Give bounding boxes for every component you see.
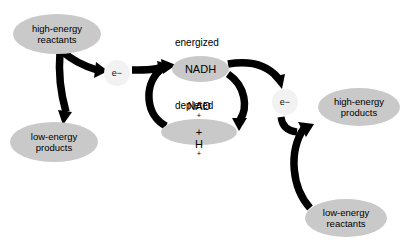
plus-separator: + [187,126,210,139]
node-label-line1: high-energy [32,23,82,34]
caption-depleted: depleted [175,100,213,111]
node-label-line1: low-energy [323,207,369,218]
node-high-energy-products: high-energy products [318,88,400,126]
h-charge: + [197,150,201,159]
diagram-canvas: high-energy reactants low-energy product… [0,0,409,245]
node-label-line2: products [31,142,77,153]
electron-marker-right: e− [272,89,298,115]
node-label: NADH [185,63,216,76]
electron-marker-left: e− [104,60,130,86]
node-label-line2: products [334,107,384,118]
arrow-hi-react-to-electron-left [63,52,108,78]
node-label-line2: reactants [323,218,369,229]
electron-label: e− [112,68,122,78]
arrow-hi-react-to-lo-prod [58,52,72,125]
arrow-nadh-to-nad [228,74,247,131]
node-label-line1: low-energy [31,131,77,142]
electron-label: e− [280,97,290,107]
nad-charge: + [197,111,201,120]
node-low-energy-products: low-energy products [10,122,98,162]
node-nadh: NADH [172,56,229,82]
arrow-lo-react-to-hi-prod [294,122,314,208]
caption-energized: energized [175,37,219,48]
node-high-energy-reactants: high-energy reactants [13,14,101,54]
node-nad-plus-h-plus: NAD+ + H+ [161,119,237,145]
node-label-line2: reactants [32,34,82,45]
node-label-line1: high-energy [334,96,384,107]
node-low-energy-reactants: low-energy reactants [305,199,387,237]
arrow-electron-right-to-hi-prod [281,117,297,132]
